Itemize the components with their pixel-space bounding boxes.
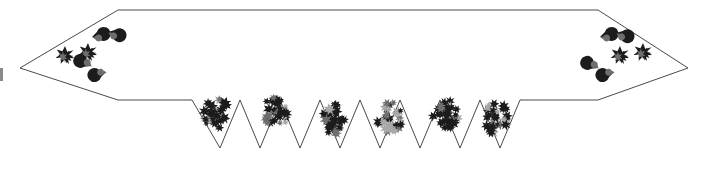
diagram-canvas <box>0 0 708 176</box>
left-edge-mark <box>0 68 3 81</box>
left-edge-mark-group <box>0 68 3 81</box>
figure-root <box>0 0 708 176</box>
